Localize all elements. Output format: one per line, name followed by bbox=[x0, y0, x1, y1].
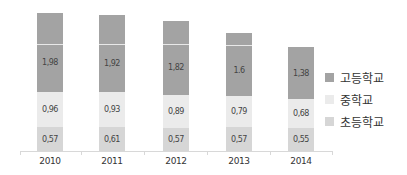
x-axis-label: 2014 bbox=[281, 156, 321, 166]
x-axis-tick bbox=[81, 151, 82, 155]
x-axis-label: 2012 bbox=[156, 156, 196, 166]
x-axis-label: 2011 bbox=[92, 156, 132, 166]
legend-label: 고등학교 bbox=[340, 69, 384, 86]
value-label: 0,57 bbox=[168, 135, 184, 144]
legend-item-high-school: 고등학교 bbox=[325, 66, 384, 88]
segment-divider bbox=[37, 44, 63, 45]
segment-high-school: 1,92 bbox=[99, 15, 125, 92]
x-axis-label: 2010 bbox=[30, 156, 70, 166]
segment-middle-school: 0,68 bbox=[288, 99, 314, 128]
segment-high-school: 1.6 bbox=[226, 33, 252, 96]
segment-high-school: 1,98 bbox=[37, 13, 63, 92]
value-label: 1,98 bbox=[42, 58, 58, 67]
value-label: 0,61 bbox=[104, 135, 120, 144]
stacked-bar-chart: 1,98 0,96 0,57 1,92 0,93 0,61 1,82 0,89 bbox=[0, 0, 407, 175]
x-axis-tick bbox=[20, 151, 21, 155]
bar-2013: 1.6 0,79 0,57 bbox=[226, 33, 252, 151]
value-label: 0,55 bbox=[293, 135, 309, 144]
value-label: 0,89 bbox=[168, 107, 184, 116]
legend-swatch bbox=[325, 95, 334, 104]
value-label: 0,57 bbox=[42, 135, 58, 144]
segment-divider bbox=[99, 44, 125, 45]
x-axis-tick bbox=[270, 151, 271, 155]
legend-label: 중학교 bbox=[340, 91, 373, 108]
segment-divider bbox=[163, 44, 189, 45]
legend-item-elementary-school: 초등학교 bbox=[325, 110, 384, 132]
x-axis-tick bbox=[207, 151, 208, 155]
legend-swatch bbox=[325, 117, 334, 126]
x-axis-label: 2013 bbox=[219, 156, 259, 166]
bar-2010: 1,98 0,96 0,57 bbox=[37, 13, 63, 151]
value-label: 0,93 bbox=[104, 105, 120, 114]
value-label: 1.6 bbox=[233, 66, 244, 75]
value-label: 1,38 bbox=[293, 69, 309, 78]
value-label: 0,96 bbox=[42, 105, 58, 114]
x-axis-tick bbox=[144, 151, 145, 155]
bar-2014: 1,38 0,68 0,55 bbox=[288, 47, 314, 151]
segment-elementary-school: 0,57 bbox=[37, 127, 63, 151]
segment-elementary-school: 0,57 bbox=[226, 127, 252, 151]
segment-divider bbox=[226, 45, 252, 46]
bar-2011: 1,92 0,93 0,61 bbox=[99, 15, 125, 151]
value-label: 0,79 bbox=[231, 107, 247, 116]
segment-elementary-school: 0,57 bbox=[163, 128, 189, 151]
bar-2012: 1,82 0,89 0,57 bbox=[163, 21, 189, 151]
segment-middle-school: 0,96 bbox=[37, 92, 63, 127]
segment-middle-school: 0,89 bbox=[163, 95, 189, 128]
segment-elementary-school: 0,55 bbox=[288, 128, 314, 151]
x-axis-tick bbox=[332, 151, 333, 155]
segment-middle-school: 0,93 bbox=[99, 92, 125, 127]
segment-high-school: 1,38 bbox=[288, 47, 314, 99]
legend-item-middle-school: 중학교 bbox=[325, 88, 384, 110]
segment-elementary-school: 0,61 bbox=[99, 127, 125, 151]
legend-label: 초등학교 bbox=[340, 113, 384, 130]
legend: 고등학교 중학교 초등학교 bbox=[325, 66, 384, 132]
value-label: 1,82 bbox=[168, 63, 184, 72]
segment-high-school: 1,82 bbox=[163, 21, 189, 95]
value-label: 0,68 bbox=[293, 109, 309, 118]
x-axis-line bbox=[20, 151, 332, 152]
value-label: 1,92 bbox=[104, 59, 120, 68]
value-label: 0,57 bbox=[231, 135, 247, 144]
segment-middle-school: 0,79 bbox=[226, 96, 252, 127]
legend-swatch bbox=[325, 73, 334, 82]
